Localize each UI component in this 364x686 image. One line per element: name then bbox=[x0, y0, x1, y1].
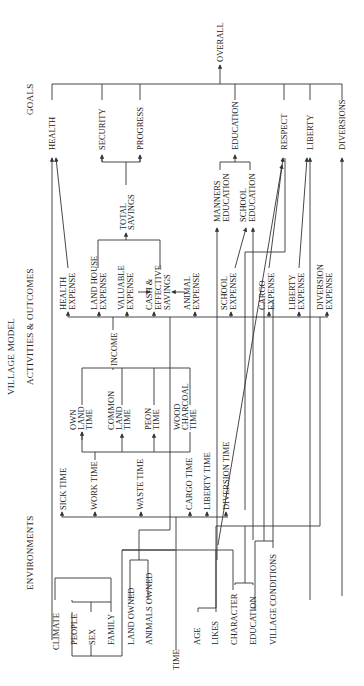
expense-animal: ANIMAL EXPENSE bbox=[182, 273, 201, 310]
svg-text:SAVINGS: SAVINGS bbox=[126, 194, 136, 230]
svg-text:TIME: TIME bbox=[84, 409, 94, 430]
env-animals-owned: ANIMALS OWNED bbox=[144, 573, 154, 645]
svg-text:EXPENSE: EXPENSE bbox=[266, 273, 276, 310]
expense-land-house: LAND HOUSE EXPENSE bbox=[89, 256, 108, 310]
goal-diversions: DIVERSIONS bbox=[337, 99, 347, 150]
svg-text:EXPENSE: EXPENSE bbox=[296, 273, 306, 310]
goal-health: HEALTH bbox=[47, 117, 57, 150]
env-land-owned: LAND OWNED bbox=[126, 588, 136, 645]
svg-text:TIME: TIME bbox=[151, 409, 161, 430]
goal-security: SECURITY bbox=[97, 108, 107, 150]
page-title: VILLAGE MODEL bbox=[6, 318, 16, 395]
env-people: PEOPLE bbox=[69, 614, 79, 645]
node-manners-education: MANNERS EDUCATION bbox=[212, 173, 231, 222]
svg-text:OVERALL: OVERALL bbox=[215, 22, 225, 62]
svg-text:TIME: TIME bbox=[122, 409, 132, 430]
expense-valuable: VALUABLE EXPENSE bbox=[116, 265, 135, 310]
env-family: FAMILY bbox=[106, 614, 116, 645]
svg-text:EXPENSE: EXPENSE bbox=[191, 273, 201, 310]
goal-education: EDUCATION bbox=[230, 101, 240, 150]
goal-progress: PROGRESS bbox=[135, 107, 145, 150]
cash-effective-savings: CASH & EFFECTIVE SAVINGS bbox=[144, 265, 172, 310]
time-diversion: DIVERSION TIME bbox=[221, 441, 231, 510]
goal-liberty: LIBERTY bbox=[305, 115, 315, 150]
time-sick: SICK TIME bbox=[58, 468, 68, 510]
time-liberty: LIBERTY TIME bbox=[202, 452, 212, 510]
env-sex: SEX bbox=[87, 629, 97, 645]
village-model-diagram: VILLAGE MODEL GOALS ACTIVITIES & OUTCOME… bbox=[0, 0, 364, 686]
svg-text:EXPENSE: EXPENSE bbox=[125, 273, 135, 310]
time-work: WORK TIME bbox=[89, 461, 99, 510]
node-school-education: SCHOOL EDUCATION bbox=[238, 173, 257, 222]
env-climate: CLIMATE bbox=[51, 613, 61, 650]
svg-text:EXPENSE: EXPENSE bbox=[228, 273, 238, 310]
work-common-land: COMMON LAND TIME bbox=[106, 391, 132, 430]
env-education: EDUCATION bbox=[248, 596, 258, 645]
svg-text:EXPENSE: EXPENSE bbox=[324, 273, 334, 310]
income-node: INCOME bbox=[109, 332, 119, 366]
column-header-activities: ACTIVITIES & OUTCOMES bbox=[25, 268, 35, 385]
env-likes: LIKES bbox=[210, 621, 220, 645]
env-time: TIME bbox=[171, 649, 181, 670]
work-wood-charcoal: WOOD CHARCOAL TIME bbox=[172, 383, 198, 430]
time-cargo: CARGO TIME bbox=[184, 458, 194, 511]
svg-text:EXPENSE: EXPENSE bbox=[98, 273, 108, 310]
expense-school: SCHOOL EXPENSE bbox=[219, 273, 238, 310]
expense-health: HEALTH EXPENSE bbox=[58, 273, 77, 310]
column-header-goals: GOALS bbox=[25, 83, 35, 115]
column-header-environments: ENVIRONMENTS bbox=[25, 515, 35, 590]
env-village-conditions: VILLAGE CONDITIONS bbox=[268, 554, 278, 645]
svg-text:EDUCATION: EDUCATION bbox=[221, 173, 231, 222]
node-total-savings: TOTAL SAVINGS bbox=[118, 194, 136, 230]
svg-text:SAVINGS: SAVINGS bbox=[162, 274, 172, 310]
svg-text:EDUCATION: EDUCATION bbox=[247, 173, 257, 222]
work-own-land: OWN LAND TIME bbox=[68, 406, 94, 430]
overall-node: OVERALL bbox=[215, 22, 225, 84]
goal-respect: RESPECT bbox=[279, 113, 289, 150]
svg-text:EXPENSE: EXPENSE bbox=[67, 273, 77, 310]
env-character: CHARACTER bbox=[229, 593, 239, 645]
env-age: AGE bbox=[192, 628, 202, 645]
svg-text:TIME: TIME bbox=[188, 409, 198, 430]
time-waste: WASTE TIME bbox=[135, 459, 145, 510]
work-peon: PEON TIME bbox=[143, 408, 161, 430]
expense-diversion: DIVERSION EXPENSE bbox=[315, 264, 334, 310]
expense-liberty: LIBERTY EXPENSE bbox=[287, 273, 306, 310]
